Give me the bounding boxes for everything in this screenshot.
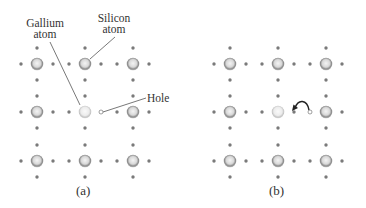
electron-dot bbox=[131, 94, 134, 97]
electron-dot bbox=[131, 126, 134, 129]
electron-dot bbox=[228, 143, 231, 146]
hole-leader-line bbox=[103, 98, 146, 112]
silicon-atom-label: Silicon atom bbox=[95, 13, 133, 35]
gallium-label-line2: atom bbox=[25, 29, 65, 40]
gallium-atom-label: Gallium atom bbox=[25, 18, 65, 40]
electron-dot bbox=[308, 159, 311, 162]
electron-dot bbox=[276, 78, 279, 81]
electron-dot bbox=[324, 175, 327, 178]
electron-dot bbox=[35, 143, 38, 146]
electron-dot bbox=[292, 159, 295, 162]
electron-dot bbox=[67, 159, 70, 162]
gallium-atom bbox=[79, 106, 92, 119]
electron-dot bbox=[292, 62, 295, 65]
electron-dot bbox=[147, 62, 150, 65]
electron-dot bbox=[340, 62, 343, 65]
silicon-atom bbox=[224, 58, 237, 71]
electron-dot bbox=[292, 110, 295, 113]
electron-dot bbox=[131, 46, 134, 49]
silicon-atom bbox=[224, 106, 237, 119]
electron-dot bbox=[35, 78, 38, 81]
silicon-atom bbox=[31, 106, 44, 119]
silicon-atom bbox=[31, 155, 44, 168]
electron-dot bbox=[147, 159, 150, 162]
silicon-leader-line bbox=[90, 37, 115, 59]
silicon-atom bbox=[272, 155, 285, 168]
silicon-label-line2: atom bbox=[95, 24, 133, 35]
electron-dot bbox=[67, 62, 70, 65]
electron-dot bbox=[244, 159, 247, 162]
electron-dot bbox=[324, 78, 327, 81]
silicon-atom bbox=[320, 106, 333, 119]
electron-dot bbox=[115, 159, 118, 162]
silicon-atom bbox=[127, 106, 140, 119]
electron-dot bbox=[276, 175, 279, 178]
electron-dot bbox=[276, 143, 279, 146]
electron-dot bbox=[324, 143, 327, 146]
electron-dot bbox=[19, 159, 22, 162]
silicon-atom bbox=[320, 58, 333, 71]
electron-dot bbox=[19, 62, 22, 65]
electron-dot bbox=[51, 159, 54, 162]
electron-dot bbox=[19, 110, 22, 113]
electron-dot bbox=[228, 78, 231, 81]
electron-dot bbox=[228, 46, 231, 49]
electron-dot bbox=[99, 62, 102, 65]
hole bbox=[99, 110, 103, 114]
electron-dot bbox=[276, 46, 279, 49]
electron-dot bbox=[131, 78, 134, 81]
electron-dot bbox=[99, 159, 102, 162]
electron-dot bbox=[51, 110, 54, 113]
electron-dot bbox=[83, 143, 86, 146]
electron-dot bbox=[131, 143, 134, 146]
silicon-atom bbox=[31, 58, 44, 71]
electron-dot bbox=[83, 126, 86, 129]
caption-a: (a) bbox=[76, 183, 90, 199]
electron-dot bbox=[340, 159, 343, 162]
panel-a bbox=[19, 46, 150, 178]
hole-motion-arrow bbox=[295, 101, 309, 110]
electron-dot bbox=[67, 110, 70, 113]
electron-dot bbox=[35, 175, 38, 178]
gallium-leader-line bbox=[50, 42, 80, 105]
electron-dot bbox=[324, 46, 327, 49]
arrowhead-icon bbox=[292, 105, 298, 112]
silicon-atom bbox=[224, 155, 237, 168]
electron-dot bbox=[83, 175, 86, 178]
electron-dot bbox=[228, 175, 231, 178]
hole-label: Hole bbox=[147, 93, 169, 104]
electron-dot bbox=[340, 110, 343, 113]
electron-dot bbox=[244, 62, 247, 65]
panel-b bbox=[212, 46, 343, 178]
electron-dot bbox=[35, 46, 38, 49]
electron-dot bbox=[115, 62, 118, 65]
electron-dot bbox=[83, 78, 86, 81]
silicon-atom bbox=[79, 58, 92, 71]
silicon-atom bbox=[127, 58, 140, 71]
electron-dot bbox=[35, 126, 38, 129]
hole bbox=[308, 110, 312, 114]
electron-dot bbox=[131, 175, 134, 178]
electron-dot bbox=[324, 126, 327, 129]
electron-dot bbox=[147, 110, 150, 113]
electron-dot bbox=[51, 62, 54, 65]
electron-dot bbox=[212, 159, 215, 162]
electron-dot bbox=[308, 62, 311, 65]
electron-dot bbox=[276, 94, 279, 97]
silicon-atom bbox=[320, 155, 333, 168]
electron-dot bbox=[244, 110, 247, 113]
silicon-atom bbox=[272, 58, 285, 71]
electron-dot bbox=[276, 126, 279, 129]
electron-dot bbox=[260, 110, 263, 113]
electron-dot bbox=[83, 46, 86, 49]
electron-dot bbox=[35, 94, 38, 97]
electron-dot bbox=[212, 110, 215, 113]
electron-dot bbox=[212, 62, 215, 65]
electron-dot bbox=[228, 126, 231, 129]
electron-dot bbox=[324, 94, 327, 97]
gallium-atom bbox=[272, 106, 285, 119]
electron-dot bbox=[260, 159, 263, 162]
electron-dot bbox=[83, 94, 86, 97]
silicon-atom bbox=[79, 155, 92, 168]
caption-b: (b) bbox=[269, 183, 284, 199]
